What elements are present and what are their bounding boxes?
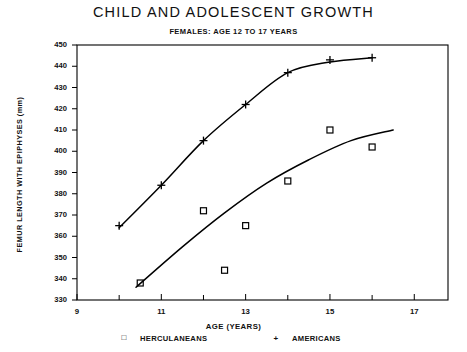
y-tick-label: 340 bbox=[37, 274, 67, 283]
data-point-americans bbox=[284, 69, 292, 77]
data-point-americans bbox=[368, 54, 376, 62]
y-tick-label: 450 bbox=[37, 40, 67, 49]
y-tick-label: 420 bbox=[37, 104, 67, 113]
data-point-herculaneans bbox=[327, 127, 333, 133]
y-tick-label: 370 bbox=[37, 210, 67, 219]
x-tick-label: 15 bbox=[315, 307, 345, 316]
data-point-herculaneans bbox=[369, 144, 375, 150]
legend-label: HERCULANEANS bbox=[140, 334, 207, 343]
data-point-herculaneans bbox=[222, 267, 228, 273]
plus-marker-icon: + bbox=[270, 334, 282, 343]
x-tick-label: 13 bbox=[231, 307, 261, 316]
y-tick-label: 390 bbox=[37, 168, 67, 177]
legend-entry-americans: +AMERICANS bbox=[270, 334, 341, 343]
chart-subtitle: FEMALES: AGE 12 TO 17 YEARS bbox=[0, 27, 467, 36]
chart-legend: □HERCULANEANS+AMERICANS bbox=[0, 334, 467, 348]
data-point-herculaneans bbox=[243, 223, 249, 229]
y-tick-label: 410 bbox=[37, 125, 67, 134]
trend-line-herculaneans bbox=[136, 130, 393, 287]
y-tick-label: 440 bbox=[37, 61, 67, 70]
x-axis-title: AGE (YEARS) bbox=[0, 322, 467, 331]
trend-line-americans bbox=[119, 58, 372, 228]
x-tick-label: 11 bbox=[146, 307, 176, 316]
y-tick-label: 400 bbox=[37, 146, 67, 155]
x-tick-label: 9 bbox=[62, 307, 92, 316]
data-point-americans bbox=[115, 222, 123, 230]
legend-entry-herculaneans: □HERCULANEANS bbox=[118, 334, 207, 343]
legend-label: AMERICANS bbox=[292, 334, 341, 343]
y-axis-title: FEMUR LENGTH WITH EPIPHYSES (mm) bbox=[15, 70, 24, 280]
y-tick-label: 330 bbox=[37, 295, 67, 304]
y-tick-label: 380 bbox=[37, 189, 67, 198]
plot-area bbox=[0, 0, 467, 352]
y-tick-label: 430 bbox=[37, 83, 67, 92]
square-marker-icon: □ bbox=[118, 333, 130, 342]
x-tick-label: 17 bbox=[399, 307, 429, 316]
data-point-herculaneans bbox=[200, 208, 206, 214]
growth-chart: CHILD AND ADOLESCENT GROWTH FEMALES: AGE… bbox=[0, 0, 467, 352]
data-point-herculaneans bbox=[285, 178, 291, 184]
y-tick-label: 350 bbox=[37, 253, 67, 262]
chart-title: CHILD AND ADOLESCENT GROWTH bbox=[0, 4, 467, 20]
y-tick-label: 360 bbox=[37, 231, 67, 240]
